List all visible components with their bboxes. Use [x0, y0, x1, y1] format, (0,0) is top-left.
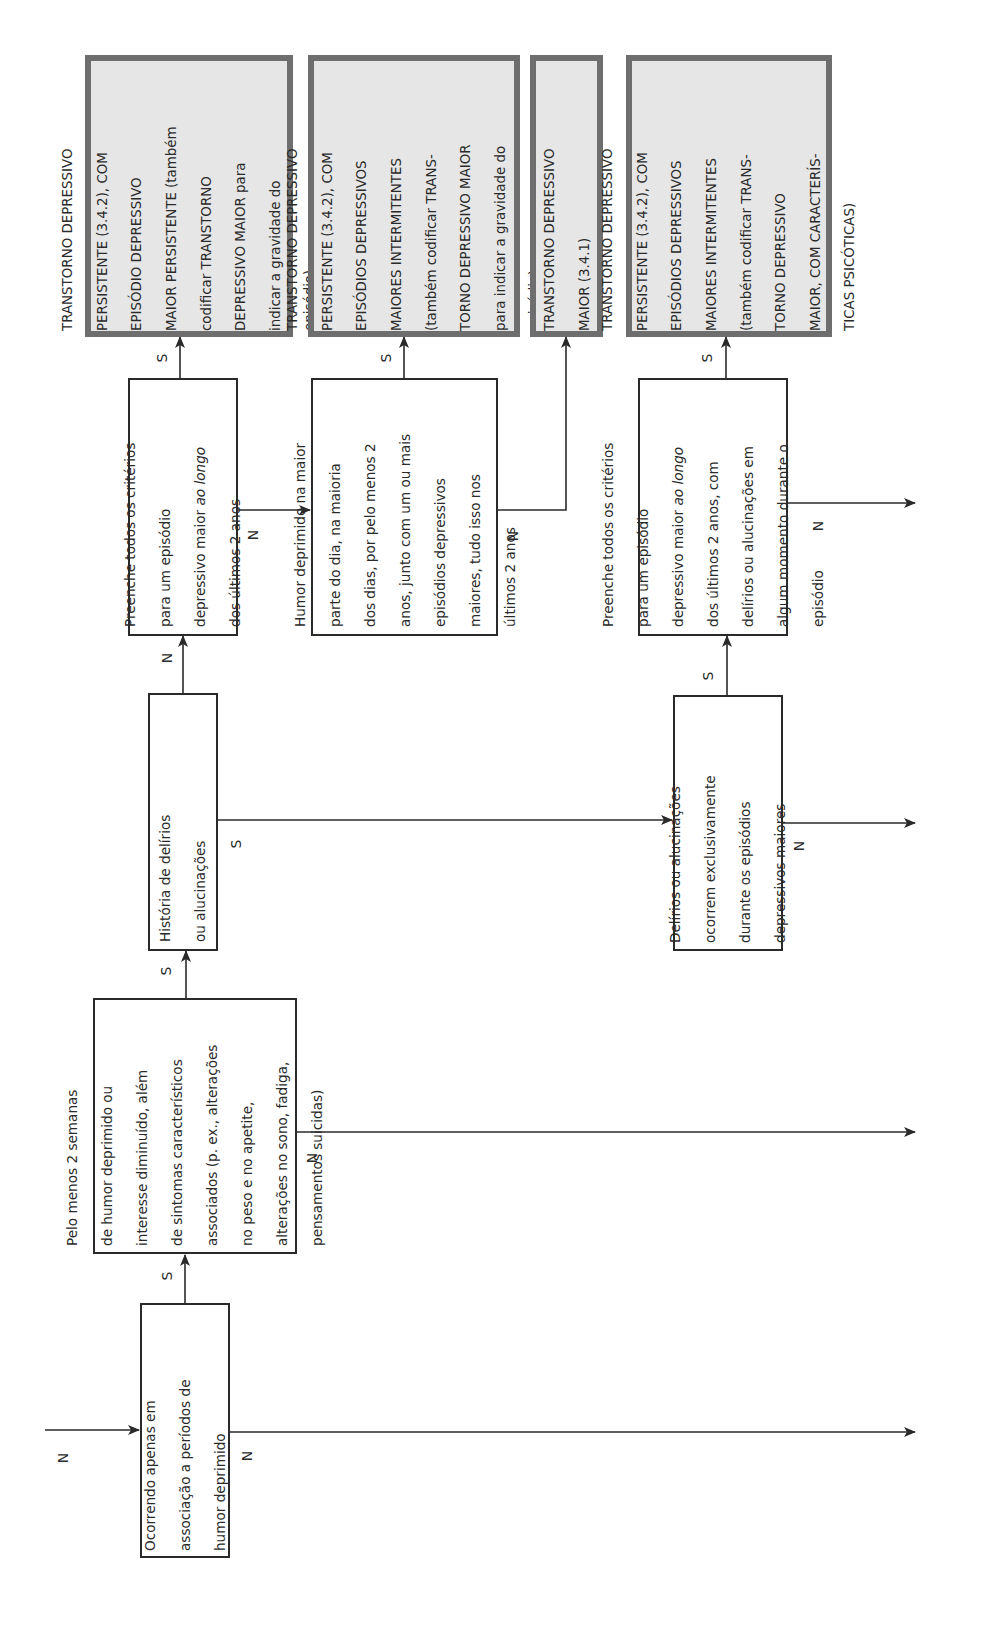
edge-label-no: N — [304, 1153, 320, 1163]
result-node-text: TRANSTORNO DEPRESSIVO PERSISTENTE (3.4.2… — [267, 61, 561, 331]
edge-label-no: N — [791, 841, 807, 851]
decision-node-text: História de delírios ou alucinações — [139, 702, 227, 942]
edge-label-yes: S — [699, 354, 715, 363]
result-node-persistent-with-psychotic-features: TRANSTORNO DEPRESSIVO PERSISTENTE (3.4.2… — [626, 55, 832, 337]
decision-node-n5: Humor deprimido na maior parte do dia, n… — [311, 378, 498, 636]
result-node-persistent-with-persistent-mde: TRANSTORNO DEPRESSIVO PERSISTENTE (3.4.2… — [85, 55, 293, 337]
edge-label-no: N — [55, 1453, 71, 1463]
decision-node-text: Ocorrendo apenas em associação a período… — [124, 1311, 247, 1551]
edge-label-no: N — [505, 531, 521, 541]
edge-label-yes: S — [378, 354, 394, 363]
decision-node-n1: Ocorrendo apenas em associação a período… — [140, 1303, 230, 1558]
decision-node-n3: História de delírios ou alucinações — [148, 693, 218, 951]
edge-label-yes: S — [700, 672, 716, 681]
decision-node-n6: Delírios ou alucinações ocorrem exclusiv… — [673, 695, 783, 951]
result-node-persistent-with-intermittent-mde: TRANSTORNO DEPRESSIVO PERSISTENTE (3.4.2… — [308, 55, 520, 337]
result-node-text: TRANSTORNO DEPRESSIVO PERSISTENTE (3.4.2… — [582, 61, 876, 331]
edge-label-no: N — [239, 1451, 255, 1461]
edge-label-no: N — [810, 521, 826, 531]
decision-node-text: Humor deprimido na maior parte do dia, n… — [273, 387, 536, 627]
decision-node-text: Preenche todos os critérios para um epis… — [104, 387, 262, 627]
edge-label-yes: S — [159, 1272, 175, 1281]
edge-label-yes: S — [154, 354, 170, 363]
decision-node-text: Pelo menos 2 semanas de humor deprimido … — [46, 1006, 344, 1246]
edge-label-yes: S — [228, 840, 244, 849]
edge-label-no: N — [159, 653, 175, 663]
decision-node-n7: Preenche todos os critérios para um epis… — [638, 378, 788, 636]
decision-node-text: Preenche todos os critérios para um epis… — [582, 387, 845, 627]
decision-node-n2: Pelo menos 2 semanas de humor deprimido … — [93, 998, 297, 1254]
decision-node-n4: Preenche todos os critérios para um epis… — [128, 378, 238, 636]
edge-label-no: N — [245, 530, 261, 540]
edge-label-yes: S — [158, 967, 174, 976]
decision-node-text: Delírios ou alucinações ocorrem exclusiv… — [649, 703, 807, 943]
